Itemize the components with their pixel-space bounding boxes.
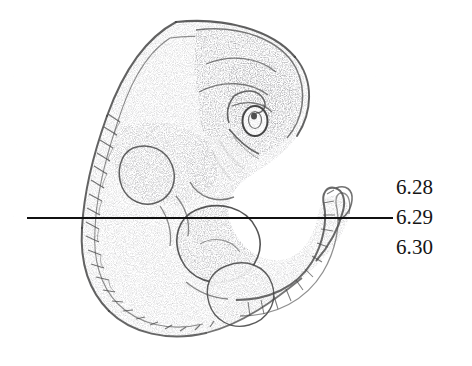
figure-number-labels: 6.28 6.29 6.30 <box>396 172 468 262</box>
hindlimb-bud <box>207 263 273 326</box>
leader-line <box>27 217 393 219</box>
figure-label-6-28: 6.28 <box>396 172 468 202</box>
figure-label-6-30: 6.30 <box>396 232 468 262</box>
figure-page: 6.28 6.29 6.30 <box>0 0 472 366</box>
figure-label-6-29: 6.29 <box>396 202 468 232</box>
